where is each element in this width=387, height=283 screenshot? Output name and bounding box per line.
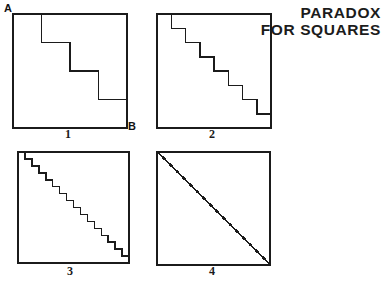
title-line-2: FOR SQUARES: [261, 21, 381, 38]
panel-caption-4: 4: [200, 264, 224, 279]
panel-1-staircase: [13, 14, 127, 128]
title-line-1: PARADOX: [261, 4, 381, 21]
figure-title: PARADOX FOR SQUARES: [261, 4, 381, 39]
panel-2: [157, 14, 271, 128]
panel-3-staircase: [18, 152, 129, 263]
panel-caption-3: 3: [58, 264, 82, 279]
panel-caption-1: 1: [56, 127, 80, 142]
panel-3: [18, 152, 129, 263]
panel-1: [13, 14, 127, 128]
vertex-label-b: B: [128, 120, 136, 132]
panel-4-staircase: [157, 152, 270, 265]
panel-2-staircase: [157, 14, 271, 128]
panel-caption-2: 2: [200, 127, 224, 142]
panels-group: [13, 14, 271, 265]
panel-4: [157, 152, 270, 265]
figure-root: PARADOX FOR SQUARES A B 1 2 3 4: [0, 0, 387, 283]
vertex-label-a: A: [4, 2, 12, 14]
